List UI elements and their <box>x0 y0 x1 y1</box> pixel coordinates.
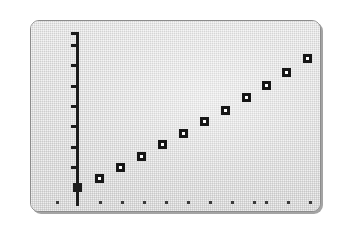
y-axis-line <box>76 32 79 206</box>
data-point-0-8 <box>262 81 271 90</box>
x-axis-tick-10 <box>287 201 290 204</box>
y-axis-origin-marker <box>73 183 82 192</box>
y-axis-tick-2 <box>71 85 78 88</box>
x-axis-tick-1 <box>99 201 102 204</box>
data-point-0-0 <box>95 174 104 183</box>
x-axis-tick-8 <box>253 201 256 204</box>
figure-root <box>0 0 352 228</box>
plot-area <box>31 21 321 212</box>
data-point-0-5 <box>200 117 209 126</box>
data-point-0-10 <box>303 54 312 63</box>
y-axis-tick-1 <box>71 64 78 67</box>
y-axis-top-cap <box>71 32 79 35</box>
y-axis-tick-5 <box>71 146 78 149</box>
plot-frame <box>30 20 321 212</box>
x-axis-tick-7 <box>231 201 234 204</box>
y-axis-tick-4 <box>71 125 78 128</box>
x-axis-tick-3 <box>143 201 146 204</box>
data-point-0-7 <box>242 93 251 102</box>
x-axis-tick-11 <box>309 201 312 204</box>
data-point-0-1 <box>116 163 125 172</box>
data-point-0-3 <box>158 140 167 149</box>
y-axis-tick-6 <box>71 166 78 169</box>
data-point-0-9 <box>282 68 291 77</box>
x-axis-tick-5 <box>187 201 190 204</box>
x-axis-tick-0 <box>56 201 59 204</box>
y-axis-tick-0 <box>71 44 78 47</box>
data-point-0-6 <box>221 106 230 115</box>
x-axis-tick-2 <box>121 201 124 204</box>
data-point-0-2 <box>137 152 146 161</box>
x-axis-tick-9 <box>265 201 268 204</box>
y-axis-tick-3 <box>71 105 78 108</box>
data-point-0-4 <box>179 129 188 138</box>
x-axis-tick-6 <box>209 201 212 204</box>
x-axis-tick-4 <box>165 201 168 204</box>
